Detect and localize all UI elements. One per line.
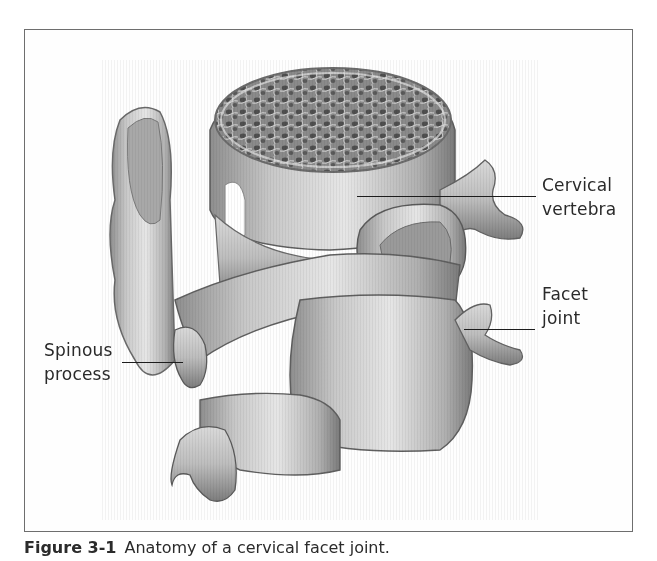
spinous-process-leader-line — [122, 362, 183, 363]
figure-caption: Figure 3-1Anatomy of a cervical facet jo… — [24, 538, 390, 557]
figure-number: Figure 3-1 — [24, 538, 116, 557]
cervical-vertebra-leader-line — [357, 196, 536, 197]
facet-joint-leader-line — [464, 329, 535, 330]
label-facet-joint: Facet joint — [542, 282, 588, 330]
cervical-spine-illustration — [0, 0, 657, 561]
label-cervical-vertebra: Cervical vertebra — [542, 173, 616, 221]
figure-caption-text: Anatomy of a cervical facet joint. — [124, 538, 389, 557]
label-spinous-process: Spinous process — [44, 338, 113, 386]
